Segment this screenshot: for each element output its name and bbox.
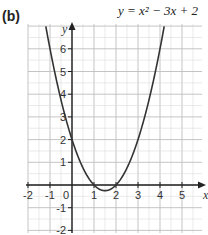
- y-tick-label: -1: [56, 202, 66, 214]
- y-tick-label: 1: [60, 156, 66, 168]
- x-axis-label: x: [202, 188, 208, 202]
- parabola-chart: -2-1012345-2-1123456xy: [0, 0, 208, 235]
- x-tick-label: 0: [63, 189, 69, 201]
- x-tick-label: 1: [91, 189, 97, 201]
- y-tick-label: 6: [60, 43, 66, 55]
- x-tick-label: 2: [113, 189, 119, 201]
- y-tick-label: 2: [60, 134, 66, 146]
- y-tick-label: -2: [56, 224, 66, 235]
- x-tick-label: -2: [23, 189, 33, 201]
- y-axis-label: y: [61, 22, 68, 36]
- x-tick-label: 4: [157, 189, 163, 201]
- y-tick-label: 5: [60, 66, 66, 78]
- x-tick-label: -1: [45, 189, 55, 201]
- x-tick-label: 3: [135, 189, 141, 201]
- x-tick-label: 5: [179, 189, 185, 201]
